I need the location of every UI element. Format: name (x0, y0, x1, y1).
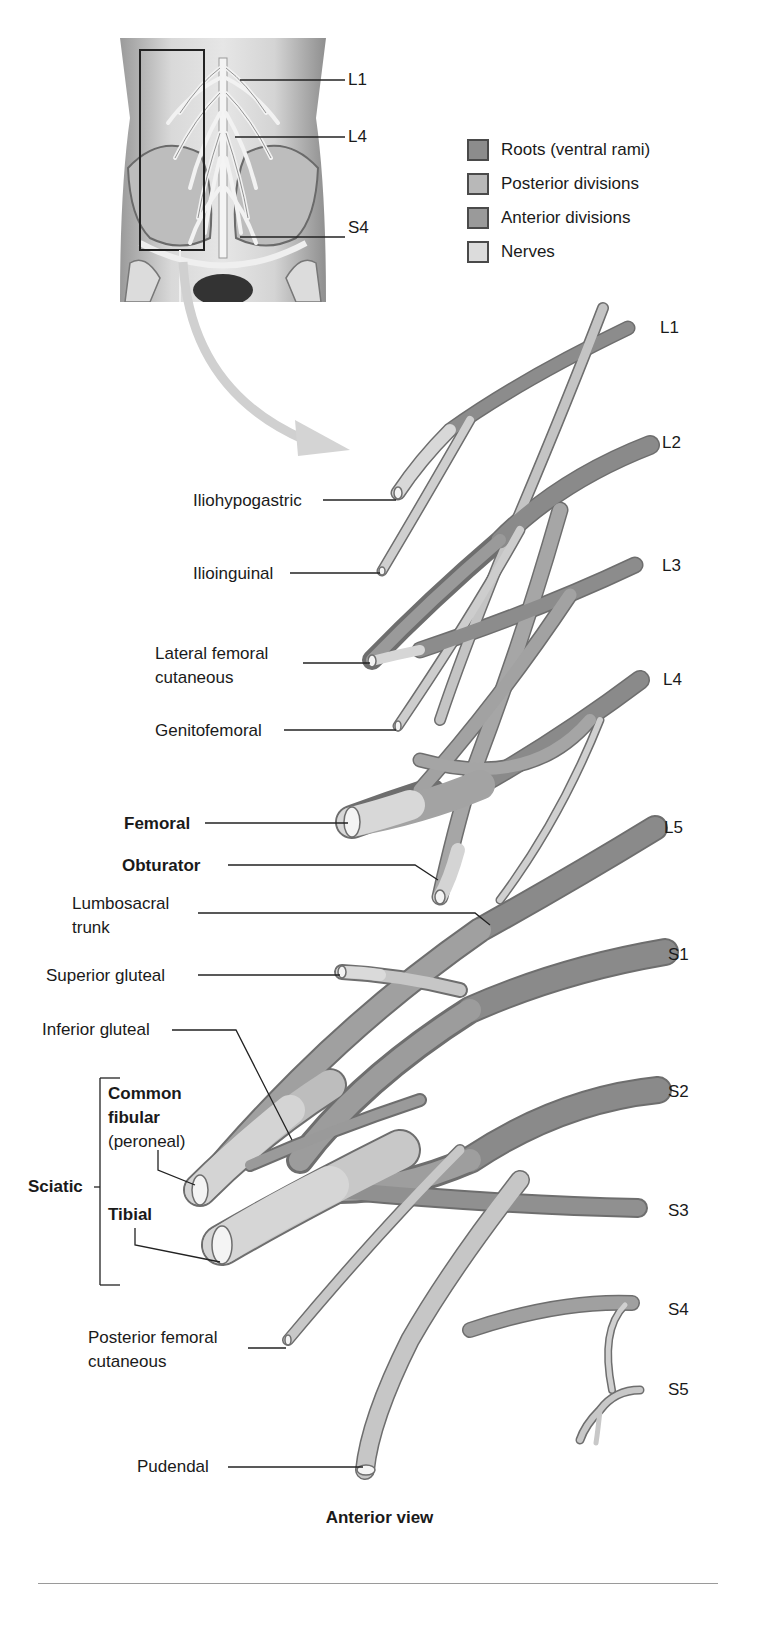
label-iliohypogastric: Iliohypogastric (193, 490, 302, 512)
root-label-l3: L3 (662, 556, 681, 576)
label-genitofemoral: Genitofemoral (155, 720, 262, 742)
label-pudendal: Pudendal (137, 1456, 209, 1478)
root-label-s3: S3 (668, 1201, 689, 1221)
label-posterior-femoral-cutaneous-1: Posterior femoral (88, 1327, 217, 1349)
label-lateral-femoral-cutaneous-1: Lateral femoral (155, 643, 268, 665)
root-label-s4: S4 (668, 1300, 689, 1320)
label-common-fibular-1: Common (108, 1083, 182, 1105)
root-label-l4: L4 (663, 670, 682, 690)
label-sciatic: Sciatic (28, 1176, 83, 1198)
label-tibial: Tibial (108, 1204, 152, 1226)
root-label-l2: L2 (662, 433, 681, 453)
root-label-s2: S2 (668, 1082, 689, 1102)
label-posterior-femoral-cutaneous-2: cutaneous (88, 1351, 166, 1373)
label-common-fibular-3: (peroneal) (108, 1131, 186, 1153)
root-label-s1: S1 (668, 945, 689, 965)
label-superior-gluteal: Superior gluteal (46, 965, 165, 987)
plexus-diagram (0, 0, 759, 1633)
label-inferior-gluteal: Inferior gluteal (42, 1019, 150, 1041)
root-label-s5: S5 (668, 1380, 689, 1400)
figure-caption: Anterior view (0, 1508, 759, 1528)
curved-arrow-icon (183, 262, 350, 456)
label-lumbosacral-trunk-1: Lumbosacral (72, 893, 169, 915)
label-common-fibular-2: fibular (108, 1107, 160, 1129)
label-femoral: Femoral (124, 813, 190, 835)
label-lateral-femoral-cutaneous-2: cutaneous (155, 667, 233, 689)
label-obturator: Obturator (122, 855, 200, 877)
bottom-divider (38, 1583, 718, 1584)
root-label-l5: L5 (664, 818, 683, 838)
label-ilioinguinal: Ilioinguinal (193, 563, 273, 585)
label-lumbosacral-trunk-2: trunk (72, 917, 110, 939)
root-label-l1: L1 (660, 318, 679, 338)
